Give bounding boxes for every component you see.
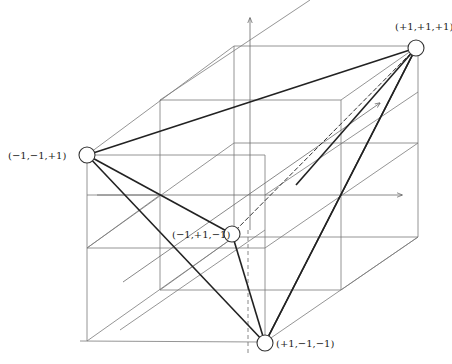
vertex-ppp <box>408 40 424 56</box>
label-mpm: (−1,+1,−1) <box>172 229 230 240</box>
label-pmm: (+1,−1,−1) <box>276 338 334 349</box>
vertex-mmp <box>79 147 95 163</box>
edge-v1-v3 <box>232 48 416 234</box>
vertex-labels: (+1,+1,+1) (−1,−1,+1) (−1,+1,−1) (+1,−1,… <box>8 21 452 349</box>
cube-tetrahedron-diagram: (+1,+1,+1) (−1,−1,+1) (−1,+1,−1) (+1,−1,… <box>0 0 452 364</box>
label-ppp: (+1,+1,+1) <box>395 21 452 32</box>
vertex-pmm <box>257 335 273 351</box>
tetrahedron <box>87 48 416 343</box>
label-mmp: (−1,−1,+1) <box>8 150 66 161</box>
coordinate-axes <box>97 18 402 356</box>
middle-horizontal-plane <box>87 143 418 248</box>
edge-v2-v4 <box>87 155 265 343</box>
vertices <box>79 40 424 351</box>
edge-v1-v4 <box>265 48 416 343</box>
middle-vertical-plane <box>87 0 418 330</box>
edge-v1-v2 <box>87 48 416 155</box>
edge-v2-v3 <box>87 155 232 234</box>
